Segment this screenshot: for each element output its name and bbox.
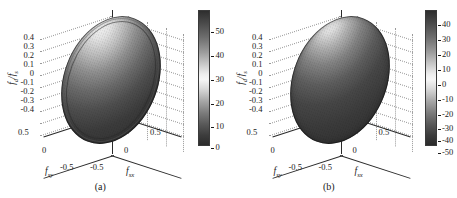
ytick-a-0: 0.5: [18, 128, 29, 137]
colorbar-gradient-b: [426, 11, 436, 145]
cbtick-a-4-label: 10: [216, 121, 225, 131]
xtick-b-1: 0: [353, 146, 357, 155]
ytitle-sub-a: sy: [48, 171, 54, 178]
colorbar-b: [425, 10, 437, 146]
cbtick-a-5-label: 0: [216, 142, 220, 152]
xtitle-sub-b: sx: [357, 171, 363, 178]
axis-spine-floor-left-b: [272, 155, 343, 179]
caption-text-b: (b): [323, 181, 335, 192]
cbtick-a-3-label: 20: [216, 98, 225, 108]
axis-title-z-a: fd/fs: [7, 59, 19, 97]
ytitle-sub-b: sy: [276, 171, 282, 178]
cbtick-b-4-label: 0: [442, 79, 446, 89]
ztick-b-8: -0.4: [237, 105, 263, 114]
axis-title-z-b: fd/fs: [236, 59, 248, 97]
ztitle-num-a: f: [7, 82, 17, 85]
cbtick-b-8: -40: [438, 136, 454, 145]
cbtick-b-9-label: -50: [442, 147, 453, 157]
ytick-b-1: 0: [271, 146, 275, 155]
figure-container: 0.4 0.3 0.2 0.1 0 -0.1 -0.2 -0.3 -0.4 fd…: [0, 0, 457, 198]
cbtick-b-3-label: 10: [442, 64, 451, 74]
caption-text-a: (a): [95, 181, 106, 192]
colorbar-a: [198, 10, 210, 146]
ztitle-num-sub-a: d: [12, 79, 19, 82]
ytick-b-2: -0.5: [289, 163, 302, 172]
xtick-a-0: -0.5: [90, 163, 103, 172]
ytick-b-0: 0.5: [247, 128, 258, 137]
panel-a: 0.4 0.3 0.2 0.1 0 -0.1 -0.2 -0.3 -0.4 fd…: [0, 0, 229, 198]
xtick-a-2: 0.5: [150, 128, 161, 137]
panel-caption-b: (b): [229, 181, 457, 192]
xtitle-sub-a: sx: [129, 171, 135, 178]
cbtick-b-4: 0: [438, 80, 447, 89]
cbtick-a-1-label: 40: [216, 50, 225, 60]
axes-3d-a: [36, 8, 186, 160]
cbtick-a-5: 0: [211, 143, 220, 152]
cbtick-b-0: 40: [438, 20, 451, 29]
ztitle-den-sub-a: s: [12, 71, 19, 74]
axis-spine-floor-left: [43, 155, 114, 179]
cbtick-a-0: 50: [211, 27, 224, 36]
ztick-a-8: -0.4: [8, 105, 34, 114]
axis-title-x-a: fsx: [126, 166, 134, 178]
cbtick-b-3: 10: [438, 65, 451, 74]
axes-3d-b: [265, 8, 415, 160]
ztitle-den-b: f: [236, 74, 246, 77]
cbtick-b-7: -30: [438, 124, 454, 133]
cbtick-b-0-label: 40: [442, 19, 451, 29]
cbtick-a-0-label: 50: [216, 26, 225, 36]
cbtick-b-5: -10: [438, 95, 454, 104]
cbtick-b-6: -20: [438, 110, 454, 119]
axis-title-y-a: fsy: [45, 166, 53, 178]
colorbar-gradient-a: [199, 11, 209, 145]
cbtick-b-1: 30: [438, 35, 451, 44]
cbtick-b-2: 20: [438, 50, 451, 59]
axis-spine-floor-right-b: [339, 155, 410, 179]
cbtick-b-5-label: -10: [442, 94, 453, 104]
xtick-a-1: 0: [124, 146, 128, 155]
cbtick-b-1-label: 30: [442, 34, 451, 44]
ztitle-num-sub-b: d: [240, 79, 247, 82]
cbtick-b-2-label: 20: [442, 49, 451, 59]
cbtick-b-9: -50: [438, 148, 454, 157]
cbtick-b-7-label: -30: [442, 123, 453, 133]
xtick-b-0: -0.5: [319, 163, 332, 172]
axis-title-x-b: fsx: [355, 166, 363, 178]
cbtick-a-2-label: 30: [216, 74, 225, 84]
cbtick-a-1: 40: [211, 51, 224, 60]
cbtick-a-4: 10: [211, 122, 224, 131]
ytick-a-1: 0: [42, 146, 46, 155]
ytick-a-2: -0.5: [60, 163, 73, 172]
cbtick-b-6-label: -20: [442, 109, 453, 119]
ztitle-den-a: f: [7, 74, 17, 77]
axis-spine-floor-right: [111, 155, 182, 179]
panel-caption-a: (a): [0, 181, 229, 192]
ztitle-num-b: f: [236, 82, 246, 85]
ztitle-den-sub-b: s: [240, 71, 247, 74]
xtick-b-2: 0.5: [379, 128, 390, 137]
cbtick-a-2: 30: [211, 75, 224, 84]
panel-b: 0.4 0.3 0.2 0.1 0 -0.1 -0.2 -0.3 -0.4 fd…: [229, 0, 457, 198]
axis-title-y-b: fsy: [274, 166, 282, 178]
cbtick-b-8-label: -40: [442, 135, 453, 145]
cbtick-a-3: 20: [211, 99, 224, 108]
